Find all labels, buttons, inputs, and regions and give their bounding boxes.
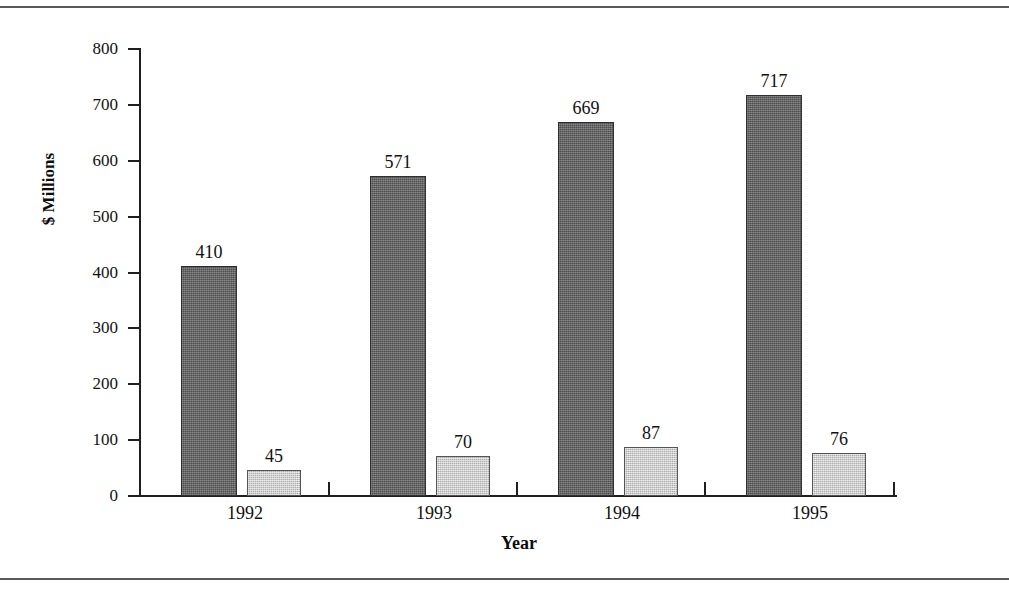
- y-tick-label-700: 700: [72, 96, 118, 113]
- bar-value-dark-1993: 571: [350, 153, 446, 171]
- bar-light-1993: [436, 456, 490, 496]
- y-tick-0: [128, 495, 140, 497]
- y-tick-label-500: 500: [72, 208, 118, 225]
- y-tick-600: [128, 160, 140, 162]
- y-tick-label-300: 300: [72, 319, 118, 336]
- bar-light-1992: [247, 470, 301, 496]
- x-tick-3: [704, 482, 706, 496]
- bar-value-dark-1992: 410: [161, 243, 257, 261]
- bar-value-light-1995: 76: [791, 430, 887, 448]
- y-axis-title: $ Millions: [40, 109, 58, 269]
- y-tick-100: [128, 439, 140, 441]
- bar-chart-figure: $ Millions 0 100 200 300 400 500 600 700…: [0, 0, 1009, 594]
- x-axis-title: Year: [140, 533, 898, 553]
- y-tick-label-600: 600: [72, 152, 118, 169]
- bar-value-light-1994: 87: [603, 424, 699, 442]
- bar-value-light-1992: 45: [226, 447, 322, 465]
- x-tick-1: [328, 482, 330, 496]
- x-category-label-1992: 1992: [180, 503, 310, 523]
- y-tick-label-400: 400: [72, 264, 118, 281]
- y-tick-400: [128, 272, 140, 274]
- x-category-label-1993: 1993: [369, 503, 499, 523]
- x-category-label-1995: 1995: [745, 503, 875, 523]
- y-tick-label-100: 100: [72, 431, 118, 448]
- bar-light-1995: [812, 453, 866, 496]
- bar-light-1994: [624, 447, 678, 496]
- y-tick-200: [128, 383, 140, 385]
- y-tick-700: [128, 104, 140, 106]
- x-tick-2: [516, 482, 518, 496]
- y-tick-500: [128, 216, 140, 218]
- y-tick-label-800: 800: [72, 40, 118, 57]
- y-tick-label-0: 0: [72, 487, 118, 504]
- page-rule-top: [0, 6, 1009, 8]
- y-tick-800: [128, 48, 140, 50]
- page-rule-bottom: [0, 578, 1009, 580]
- bar-value-dark-1995: 717: [726, 72, 822, 90]
- bar-value-light-1993: 70: [415, 433, 511, 451]
- x-tick-4: [893, 482, 895, 496]
- x-category-label-1994: 1994: [557, 503, 687, 523]
- y-tick-label-200: 200: [72, 375, 118, 392]
- bar-value-dark-1994: 669: [538, 99, 634, 117]
- y-tick-300: [128, 327, 140, 329]
